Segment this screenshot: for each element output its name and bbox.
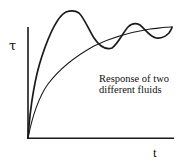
y-axis-label: τ <box>9 38 16 53</box>
annotation-line-2: different fluids <box>99 84 169 95</box>
x-axis-label: t <box>153 145 157 161</box>
annotation-line-1: Response of two <box>99 73 169 84</box>
chart-annotation: Response of two different fluids <box>99 73 169 95</box>
